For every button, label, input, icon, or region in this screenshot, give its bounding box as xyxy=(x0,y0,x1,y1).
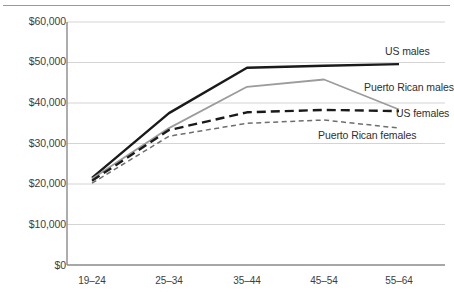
series-label-puerto-rican-males: Puerto Rican males xyxy=(364,81,454,93)
x-tick-label: 19–24 xyxy=(78,275,105,286)
x-tick-label: 35–44 xyxy=(233,275,260,286)
x-tick-label: 45–54 xyxy=(310,275,337,286)
series-line-us-females xyxy=(92,110,399,181)
series-label-puerto-rican-females: Puerto Rican females xyxy=(318,129,416,141)
series-line-us-males xyxy=(92,64,399,178)
series-label-us-females: US females xyxy=(396,107,449,119)
x-tick-label: 55–64 xyxy=(385,275,412,286)
x-tick-label: 25–34 xyxy=(155,275,182,286)
series-paths xyxy=(92,64,399,183)
series-label-us-males: US males xyxy=(385,45,430,57)
